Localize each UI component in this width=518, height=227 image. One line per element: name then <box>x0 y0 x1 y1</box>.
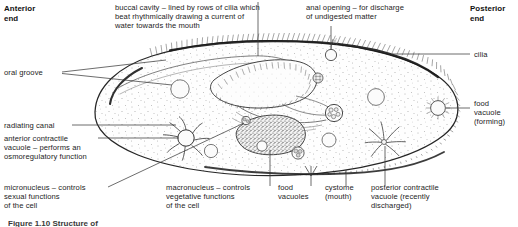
food-vacuole <box>257 141 267 151</box>
food-vacuoles-label: food vacuoles <box>278 183 322 201</box>
cilia-label: cilia <box>474 50 487 59</box>
food-vacuole <box>322 133 336 147</box>
anterior-contractile-vacuole-label: anterior contractile vacuole – performs … <box>4 134 104 161</box>
anterior-end-label: Anterior end <box>4 4 35 23</box>
cystome-label: cystome (mouth) <box>325 183 371 201</box>
paramecium-diagram-figure: Anterior end Posterior end buccal cavity… <box>0 0 518 227</box>
trichocyst-body <box>313 73 323 83</box>
anal-opening-label: anal opening – for discharge of undigest… <box>306 3 436 21</box>
food-vacuole <box>368 89 385 106</box>
food-vacuole <box>204 144 217 157</box>
food-vacuole <box>171 80 189 98</box>
micronucleus-label: micronucleus – controls sexual functions… <box>4 183 114 210</box>
figure-caption: Figure 1.10 Structure of <box>8 219 238 227</box>
posterior-end-label: Posterior end <box>470 4 505 23</box>
oral-groove-label: oral groove <box>4 68 43 77</box>
micronucleus-secondary <box>292 147 304 159</box>
macronucleus-label: macronucleus – controls vegetative funct… <box>166 183 274 210</box>
cytostome-mouth <box>325 104 342 121</box>
food-vacuole-forming-label: food vacuole (forming) <box>474 99 518 126</box>
buccal-cavity-label: buccal cavity – lined by rows of cilia w… <box>115 3 265 30</box>
radiating-canal-label: radiating canal <box>4 121 55 130</box>
paramecium-cell-body <box>95 33 460 176</box>
posterior-contractile-vacuole-label: posterior contractile vacuole (recently … <box>371 183 471 210</box>
